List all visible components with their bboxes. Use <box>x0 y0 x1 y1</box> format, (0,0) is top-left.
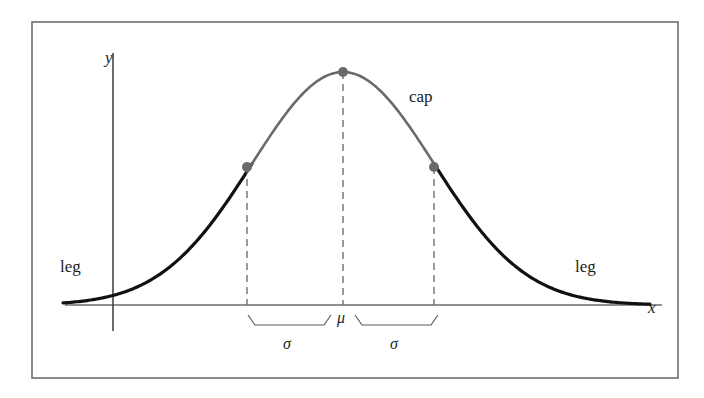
y-axis-label: y <box>103 48 113 67</box>
figure-canvas: y x leg cap leg μ σ σ <box>0 0 704 398</box>
sigma-label-right: σ <box>390 335 399 352</box>
mu-label: μ <box>336 309 345 327</box>
x-axis-label: x <box>647 298 656 317</box>
leg-label-right: leg <box>575 257 596 276</box>
leg-label-left: leg <box>60 257 81 276</box>
peak-point <box>338 67 348 77</box>
cap-label: cap <box>409 87 433 106</box>
left-inflection-point <box>242 162 252 172</box>
sigma-label-left: σ <box>283 335 292 352</box>
right-inflection-point <box>429 162 439 172</box>
normal-curve-figure: y x leg cap leg μ σ σ <box>0 0 704 398</box>
